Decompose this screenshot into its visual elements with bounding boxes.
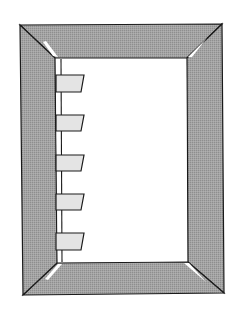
frame-left-panel (20, 25, 57, 295)
frame-illustration (0, 0, 241, 328)
frame-diagram (0, 0, 241, 328)
index-tab-3 (56, 155, 84, 171)
index-tab-2 (56, 115, 84, 131)
index-tab-1 (56, 75, 84, 92)
index-tab-4 (56, 194, 84, 210)
frame-right-panel (187, 24, 224, 293)
index-tab-5 (56, 233, 84, 250)
